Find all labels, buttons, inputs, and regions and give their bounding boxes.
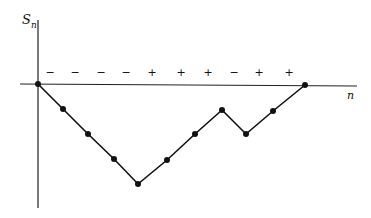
point-1	[60, 106, 66, 112]
point-8	[243, 131, 249, 137]
y-axis-label-subscript: n	[31, 20, 37, 30]
step-sign-7: +	[203, 67, 213, 78]
point-6	[192, 131, 198, 137]
step-sign-8: −	[229, 67, 239, 78]
step-sign-6: +	[176, 67, 186, 78]
point-5	[164, 157, 170, 163]
point-9	[270, 108, 276, 114]
random-walk-diagram	[0, 0, 371, 218]
x-axis-label: n	[347, 89, 354, 102]
y-axis-label-main: S	[22, 12, 31, 27]
point-7	[219, 107, 225, 113]
step-sign-10: +	[284, 67, 294, 78]
point-0	[35, 81, 41, 87]
point-3	[111, 156, 117, 162]
step-sign-9: +	[254, 67, 264, 78]
point-2	[85, 131, 91, 137]
walk-points	[35, 81, 308, 187]
step-sign-5: +	[147, 67, 157, 78]
step-sign-1: −	[45, 67, 55, 78]
step-sign-4: −	[121, 67, 131, 78]
step-sign-3: −	[96, 67, 106, 78]
step-sign-2: −	[70, 67, 80, 78]
walk-path	[38, 84, 305, 184]
point-10	[302, 82, 308, 88]
point-4	[135, 181, 141, 187]
y-axis-label: Sn	[22, 12, 37, 30]
